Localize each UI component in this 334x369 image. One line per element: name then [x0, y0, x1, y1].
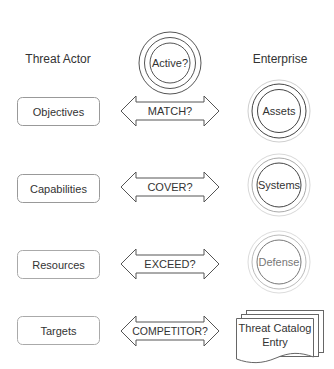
- threat-catalog-label-line2: Entry: [262, 336, 288, 348]
- threat-actor-header: Threat Actor: [25, 52, 90, 66]
- resources-label: Resources: [32, 259, 85, 271]
- threat-model-diagram: Threat Actor Enterprise Active? Objectiv…: [0, 0, 334, 369]
- exceed-label: EXCEED?: [144, 258, 195, 270]
- match-label: MATCH?: [148, 105, 192, 117]
- active-label: Active?: [152, 57, 188, 69]
- cover-label: COVER?: [147, 181, 192, 193]
- competitor-label: COMPETITOR?: [132, 325, 208, 337]
- assets-label: Assets: [262, 105, 296, 117]
- enterprise-header: Enterprise: [253, 52, 308, 66]
- systems-label: Systems: [258, 179, 301, 191]
- threat-catalog-label-line1: Threat Catalog: [239, 322, 312, 334]
- objectives-label: Objectives: [33, 106, 85, 118]
- defense-label: Defense: [259, 256, 300, 268]
- targets-label: Targets: [40, 325, 77, 337]
- capabilities-label: Capabilities: [30, 183, 87, 195]
